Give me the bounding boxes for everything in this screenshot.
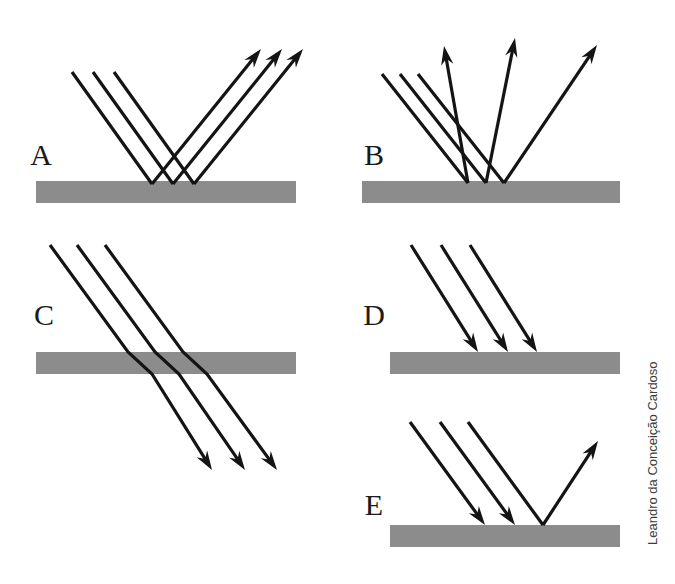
panel-label-c: C xyxy=(34,298,54,331)
surface-bar-e xyxy=(390,525,620,547)
panel-label-e: E xyxy=(365,488,383,521)
figure-root: ABCDE Leandro da Conceição Cardoso xyxy=(0,0,675,584)
diagram-background xyxy=(0,0,675,584)
surface-bar-a xyxy=(36,181,296,203)
light-surface-interaction-diagram: ABCDE Leandro da Conceição Cardoso xyxy=(0,0,675,584)
panel-label-d: D xyxy=(363,298,385,331)
credit-label: Leandro da Conceição Cardoso xyxy=(645,361,660,545)
credit-group: Leandro da Conceição Cardoso xyxy=(645,361,660,545)
surface-bar-d xyxy=(390,352,620,374)
panel-label-b: B xyxy=(364,138,384,171)
panel-label-a: A xyxy=(30,138,52,171)
surface-bar-b xyxy=(362,181,620,203)
